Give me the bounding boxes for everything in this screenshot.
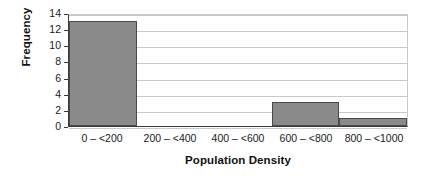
bar-slot — [339, 15, 407, 126]
histogram-chart: Frequency 02468101214 0 – <200200 – <400… — [0, 0, 448, 179]
x-axis-title: Population Density — [68, 154, 408, 166]
y-axis-tick-label: 12 — [49, 23, 61, 36]
bar-slot — [137, 15, 205, 126]
y-axis-ticks: 02468101214 — [0, 14, 68, 127]
y-axis-tick-mark — [64, 127, 68, 128]
y-axis-tick-label: 4 — [55, 88, 61, 101]
y-axis-tick-label: 10 — [49, 39, 61, 52]
y-axis-tick-label: 14 — [49, 7, 61, 20]
plot-area — [68, 14, 408, 127]
y-axis-tick-label: 8 — [55, 55, 61, 68]
bar-series — [69, 15, 407, 126]
y-axis-tick-label: 6 — [55, 72, 61, 85]
x-axis-tick-label: 800 – <1000 — [340, 130, 408, 146]
x-axis-tick-label: 0 – <200 — [68, 130, 136, 146]
y-axis-tick-label: 0 — [55, 120, 61, 133]
gridline — [69, 128, 407, 129]
x-axis-tick-label: 400 – <600 — [204, 130, 272, 146]
x-axis-tick-label: 600 – <800 — [272, 130, 340, 146]
bar-slot — [272, 15, 340, 126]
bar-slot — [204, 15, 272, 126]
bar — [272, 102, 340, 126]
x-axis-tick-labels: 0 – <200200 – <400400 – <600600 – <80080… — [68, 130, 408, 146]
bar — [339, 118, 407, 126]
x-axis-tick-label: 200 – <400 — [136, 130, 204, 146]
y-axis-tick-label: 2 — [55, 104, 61, 117]
bar-slot — [69, 15, 137, 126]
bar — [69, 21, 137, 126]
